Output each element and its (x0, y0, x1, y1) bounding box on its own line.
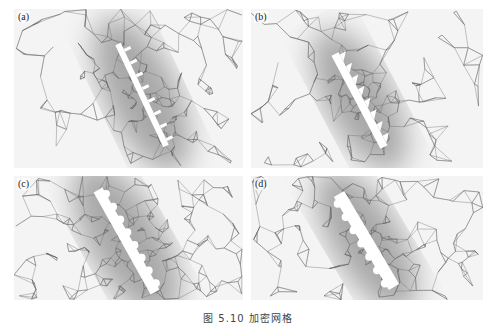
panel-label-a: (a) (17, 11, 30, 23)
mesh-canvas (251, 176, 483, 300)
panel-c: (c) (14, 176, 243, 300)
panel-label-d: (d) (254, 178, 268, 190)
panel-label-c: (c) (17, 178, 30, 190)
panel-a: (a) (14, 9, 243, 168)
panel-label-b: (b) (254, 11, 268, 23)
panel-b: (b) (251, 9, 483, 168)
mesh-canvas (14, 176, 243, 300)
figure-caption: 图 5.10 加密网格 (0, 310, 496, 325)
mesh-canvas (251, 9, 483, 168)
panel-d: (d) (251, 176, 483, 300)
mesh-canvas (14, 9, 243, 168)
